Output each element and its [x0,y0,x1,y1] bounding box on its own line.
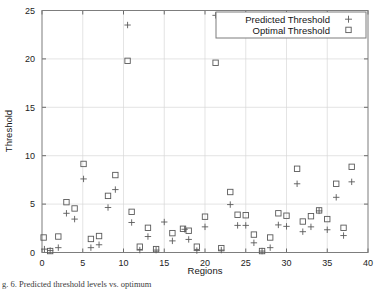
legend: Predicted Threshold Optimal Threshold [216,12,366,38]
data-point-predicted [202,224,208,230]
data-point-predicted [124,22,130,28]
data-point-predicted [333,194,339,200]
figure-caption: g. 6. Predicted threshold levels vs. opt… [2,279,380,295]
x-tick-label: 10 [118,258,128,268]
y-tick-label: 25 [25,6,35,16]
data-point-optimal [113,172,118,177]
data-point-predicted [349,179,355,185]
y-axis-ticks-group: 0510152025 [25,6,368,258]
x-tick-label: 25 [241,258,251,268]
data-point-optimal [105,193,110,198]
data-point-predicted [161,219,167,225]
data-point-predicted [88,244,94,250]
data-point-optimal [81,161,86,166]
data-point-predicted [308,224,314,230]
data-point-optimal [294,166,299,171]
data-point-optimal [334,181,339,186]
x-tick-label: 0 [39,258,44,268]
data-point-optimal [56,234,61,239]
data-point-predicted [275,222,281,228]
data-point-predicted [234,222,240,228]
data-point-predicted [71,216,77,222]
gridlines-group [42,11,368,253]
x-axis-ticks-group: 0510152025303540 [39,11,373,268]
data-point-optimal [96,233,101,238]
data-point-predicted [283,223,289,229]
data-point-predicted [267,244,273,250]
data-point-optimal [170,230,175,235]
x-tick-label: 40 [363,258,373,268]
y-tick-label: 20 [25,54,35,64]
data-point-optimal [341,225,346,230]
y-tick-label: 15 [25,103,35,113]
data-point-optimal [251,232,256,237]
data-point-optimal [129,209,134,214]
x-tick-label: 35 [322,258,332,268]
x-tick-label: 30 [281,258,291,268]
data-point-predicted [186,236,192,242]
data-point-predicted [63,210,69,216]
legend-label-optimal: Optimal Threshold [253,25,330,36]
data-point-predicted [169,238,175,244]
data-point-predicted [105,204,111,210]
data-point-optimal [235,212,240,217]
data-point-predicted [145,233,151,239]
data-point-predicted [112,186,118,192]
data-point-predicted [300,228,306,234]
data-point-predicted [294,181,300,187]
y-axis-title: Threshold [3,110,14,152]
data-point-optimal [268,235,273,240]
data-point-predicted [340,232,346,238]
data-point-optimal [276,211,281,216]
data-point-predicted [259,248,265,254]
data-point-optimal [88,236,93,241]
data-point-predicted [55,244,61,250]
data-point-predicted [324,227,330,233]
data-point-optimal [213,60,218,65]
data-point-optimal [145,225,150,230]
data-point-optimal [300,219,305,224]
x-tick-label: 5 [80,258,85,268]
x-axis-title: Regions [188,265,223,276]
y-tick-label: 0 [30,248,35,258]
y-tick-label: 5 [30,199,35,209]
legend-label-predicted: Predicted Threshold [245,14,330,25]
data-point-predicted [243,222,249,228]
data-point-optimal [72,206,77,211]
data-point-predicted [96,242,102,248]
data-point-optimal [228,189,233,194]
data-point-predicted [251,240,257,246]
data-point-predicted [128,219,134,225]
data-point-predicted [80,176,86,182]
scatter-plot: 0510152025 0510152025303540 Regions Thre… [0,0,382,278]
data-point-predicted [227,201,233,207]
y-tick-label: 10 [25,151,35,161]
x-tick-label: 15 [159,258,169,268]
data-point-optimal [308,214,313,219]
data-point-optimal [349,164,354,169]
figure-container: 0510152025 0510152025303540 Regions Thre… [0,0,382,295]
